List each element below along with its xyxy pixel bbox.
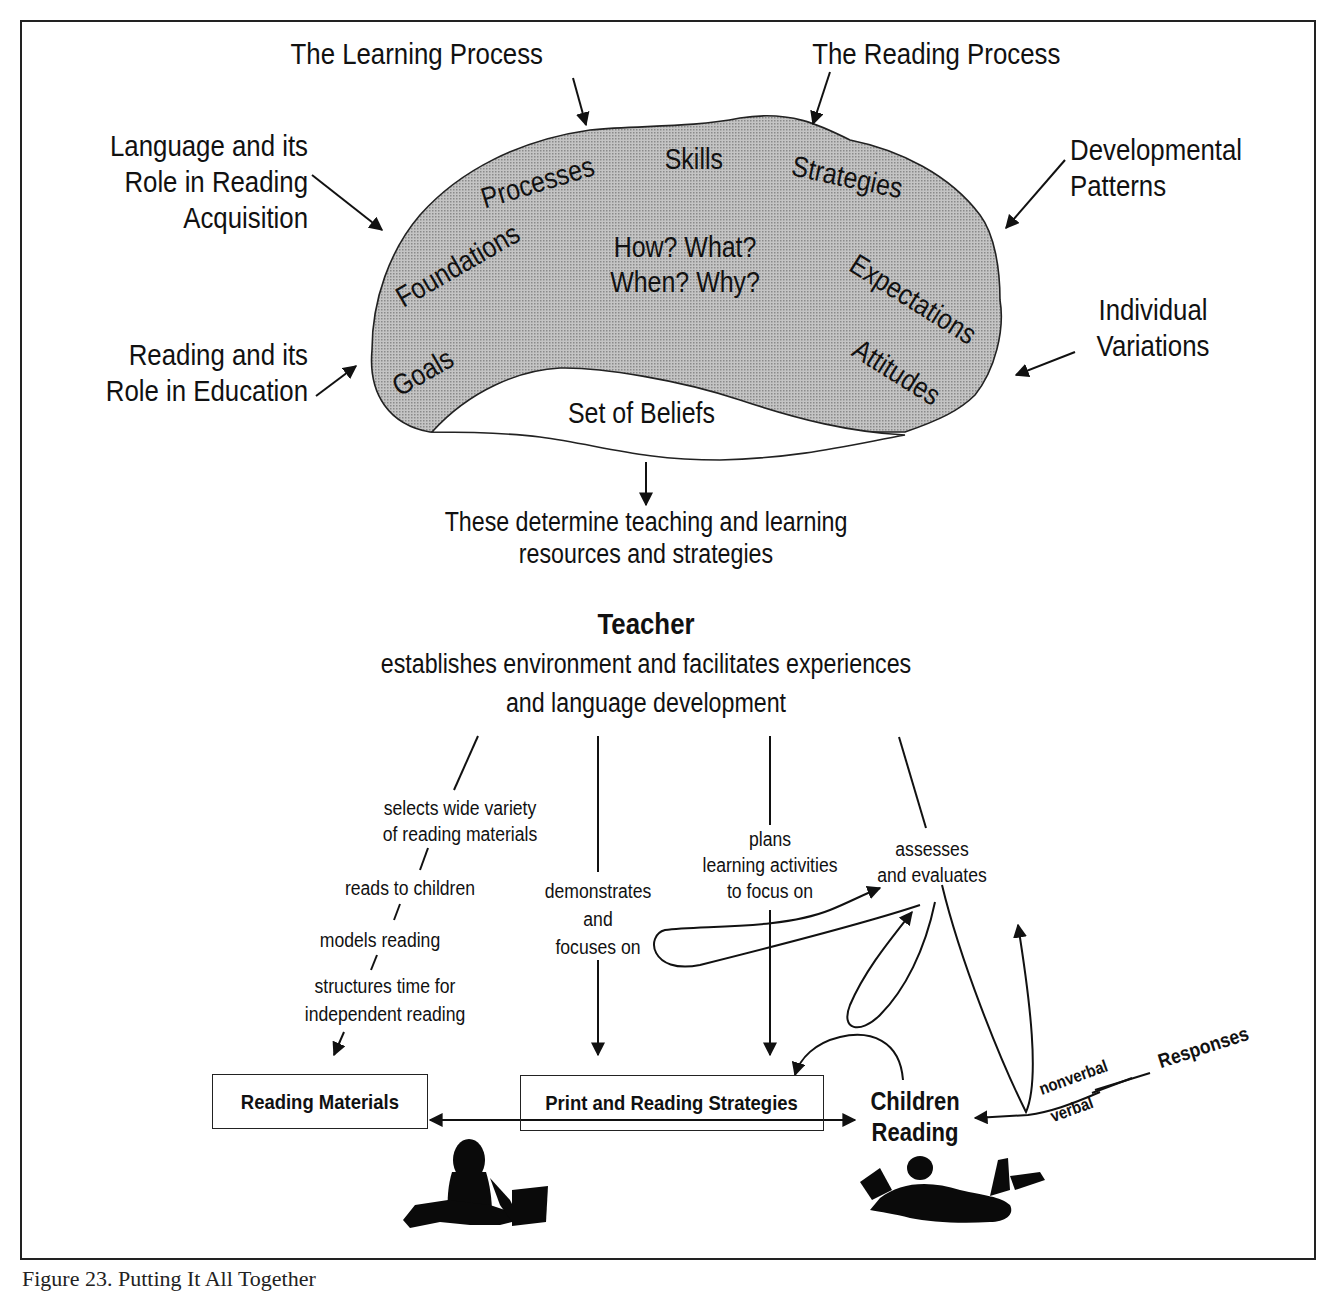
individual-variations-label: Individual Variations (1089, 292, 1218, 364)
lying-child-silhouette (860, 1156, 1045, 1223)
branch-demonstrates: demonstrates and focuses on (528, 877, 669, 961)
teacher-description: establishes environment and facilitates … (345, 645, 947, 723)
box-print-reading-strategies: Print and Reading Strategies (520, 1075, 824, 1131)
box-reading-materials: Reading Materials (212, 1074, 428, 1129)
branch-reads-to-children: reads to children (322, 876, 498, 900)
plans-line-1: plans (700, 826, 841, 852)
language-role-line-2: Role in Reading (93, 164, 308, 200)
individual-line-1: Individual (1089, 292, 1218, 328)
figure-caption: Figure 23. Putting It All Together (22, 1266, 316, 1292)
assesses-line-2: and evaluates (870, 862, 993, 888)
structures-line-1: structures time for (293, 972, 478, 1000)
teacher-title: Teacher (560, 606, 732, 642)
children-line-1: Children (867, 1086, 964, 1117)
beliefs-questions: How? What? When? Why? (610, 230, 760, 300)
print-strategies-label: Print and Reading Strategies (546, 1091, 799, 1115)
branch-models-reading: models reading (292, 928, 468, 952)
language-role-line-3: Acquisition (93, 200, 308, 236)
individual-line-2: Variations (1089, 328, 1218, 364)
questions-line-2: When? Why? (610, 265, 760, 300)
reading-materials-label: Reading Materials (241, 1090, 399, 1114)
developmental-patterns-label: Developmental Patterns (1070, 132, 1242, 204)
teacher-desc-line-1: establishes environment and facilitates … (345, 645, 947, 684)
assesses-line-1: assesses (870, 836, 993, 862)
language-role-label: Language and its Role in Reading Acquisi… (93, 128, 308, 236)
branch-assesses: assesses and evaluates (870, 836, 993, 888)
selects-line-1: selects wide variety (363, 795, 557, 821)
demonstrates-line-3: focuses on (528, 933, 669, 961)
selects-line-2: of reading materials (363, 821, 557, 847)
learning-process-label: The Learning Process (291, 36, 543, 72)
children-reading-label: Children Reading (860, 1086, 970, 1149)
sitting-child-silhouette (403, 1139, 548, 1228)
questions-line-1: How? What? (610, 230, 760, 265)
reading-role-label: Reading and its Role in Education (93, 337, 308, 409)
determines-line-1: These determine teaching and learning (388, 506, 904, 538)
plans-line-2: learning activities (700, 852, 841, 878)
word-skills: Skills (665, 142, 723, 177)
determines-text: These determine teaching and learning re… (388, 506, 904, 571)
demonstrates-line-1: demonstrates (528, 877, 669, 905)
set-of-beliefs-label: Set of Beliefs (568, 396, 715, 431)
branch-structures-time: structures time for independent reading (293, 972, 478, 1028)
demonstrates-line-2: and (528, 905, 669, 933)
structures-line-2: independent reading (293, 1000, 478, 1028)
teacher-desc-line-2: and language development (345, 684, 947, 723)
developmental-line-2: Patterns (1070, 168, 1242, 204)
reading-role-line-2: Role in Education (93, 373, 308, 409)
language-role-line-1: Language and its (93, 128, 308, 164)
branch-selects: selects wide variety of reading material… (363, 795, 557, 847)
reading-role-line-1: Reading and its (93, 337, 308, 373)
plans-line-3: to focus on (700, 878, 841, 904)
branch-plans: plans learning activities to focus on (700, 826, 841, 904)
reading-process-label: The Reading Process (812, 36, 1060, 72)
developmental-line-1: Developmental (1070, 132, 1242, 168)
determines-line-2: resources and strategies (388, 538, 904, 570)
children-line-2: Reading (867, 1117, 964, 1148)
